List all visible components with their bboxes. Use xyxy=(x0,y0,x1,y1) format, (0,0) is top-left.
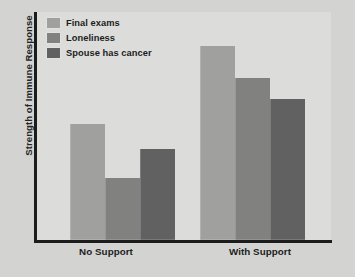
legend-swatch-icon xyxy=(47,18,60,28)
legend-label: Loneliness xyxy=(66,33,115,43)
x-axis-line xyxy=(34,240,332,243)
x-axis-category-label: With Support xyxy=(190,246,330,257)
legend-item: Final exams xyxy=(47,16,152,29)
chart-legend: Final exams Loneliness Spouse has cancer xyxy=(47,16,152,59)
legend-item: Spouse has cancer xyxy=(47,46,152,59)
y-axis-line xyxy=(34,12,37,242)
x-axis-category-label: No Support xyxy=(36,246,176,257)
bar xyxy=(200,46,235,240)
y-axis-title: Strength of Immune Response xyxy=(23,0,34,186)
legend-label: Spouse has cancer xyxy=(66,48,152,58)
legend-label: Final exams xyxy=(66,18,120,28)
legend-swatch-icon xyxy=(47,33,60,43)
bar xyxy=(235,78,270,240)
bar-chart-figure: Strength of Immune Response Final exams … xyxy=(0,0,355,277)
bar xyxy=(140,149,175,240)
bar xyxy=(70,124,105,240)
bar xyxy=(270,99,305,240)
legend-item: Loneliness xyxy=(47,31,152,44)
legend-swatch-icon xyxy=(47,48,60,58)
bar xyxy=(105,178,140,240)
